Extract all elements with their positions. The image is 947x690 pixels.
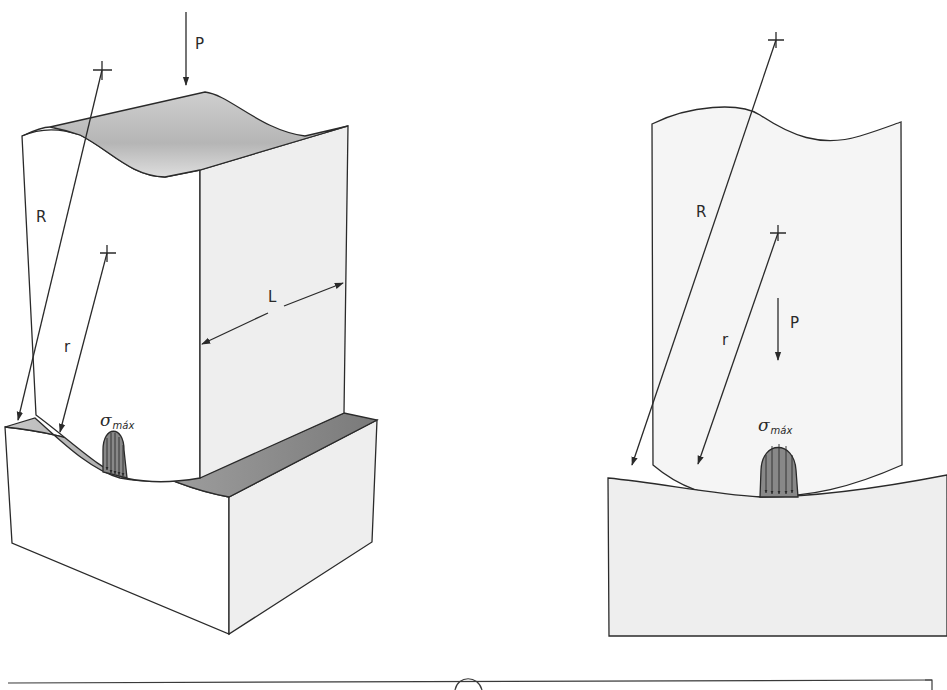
left-length-label: L: [268, 290, 276, 305]
left-3d-view: [5, 12, 377, 634]
upper-body: [652, 107, 902, 497]
right-load-label: P: [790, 316, 799, 331]
center-R-cross-2d: [768, 32, 784, 48]
left-load-label: P: [195, 37, 204, 52]
left-outer-radius-label: R: [36, 210, 46, 225]
contact-stress-diagram: [0, 0, 947, 690]
lower-body: [608, 475, 947, 636]
right-2d-view: [608, 32, 947, 636]
right-inner-radius-label: r: [722, 333, 728, 348]
left-stress-label: σmáx: [100, 412, 134, 431]
bottom-frame-partial: [8, 679, 932, 690]
right-outer-radius-label: R: [696, 205, 706, 220]
left-inner-radius-label: r: [64, 340, 70, 355]
right-stress-label: σmáx: [758, 417, 792, 436]
center-R-cross: [93, 61, 112, 80]
